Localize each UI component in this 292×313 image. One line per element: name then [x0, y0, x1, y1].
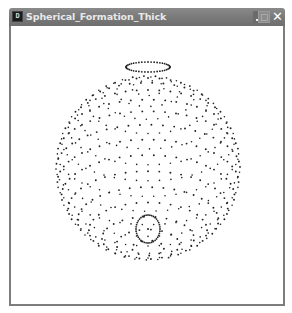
sphere-dot — [199, 203, 201, 205]
sphere-dot — [132, 76, 134, 78]
sphere-dot — [228, 154, 230, 156]
sphere-dot — [115, 112, 117, 114]
sphere-dot — [133, 244, 135, 246]
sphere-dot — [81, 210, 83, 212]
sphere-dot — [75, 111, 77, 113]
sphere-dot — [87, 232, 89, 234]
sphere-dot — [160, 252, 162, 254]
sphere-dot — [147, 133, 149, 135]
sphere-dot — [99, 195, 101, 197]
sphere-dot — [180, 242, 182, 244]
render-canvas-area[interactable] — [9, 26, 285, 306]
sphere-dot — [137, 252, 139, 254]
sphere-dot — [68, 132, 70, 134]
sphere-dot — [181, 232, 183, 234]
sphere-dot — [114, 92, 116, 94]
sphere-dot — [190, 176, 192, 178]
sphere-dot — [159, 70, 161, 72]
sphere-dot — [133, 84, 135, 86]
sphere-dot — [136, 171, 138, 173]
sphere-dot — [105, 210, 107, 212]
sphere-dot — [190, 158, 192, 160]
sphere-dot — [138, 71, 140, 73]
title-bar[interactable]: D Spherical_Formation_Thick ✕ — [9, 8, 285, 26]
sphere-dot — [95, 236, 97, 238]
sphere-dot — [191, 230, 193, 232]
sphere-dot — [67, 210, 69, 212]
sphere-dot — [227, 202, 229, 204]
sphere-dot — [140, 186, 142, 188]
sphere-dot — [191, 245, 193, 247]
sphere-dot — [138, 93, 140, 95]
sphere-dot — [231, 204, 233, 206]
sphere-dot — [150, 106, 152, 108]
sphere-dot — [152, 80, 154, 82]
sphere-dot — [138, 229, 140, 231]
sphere-dot — [238, 161, 240, 163]
sphere-dot — [167, 209, 169, 211]
sphere-dot — [142, 241, 144, 243]
sphere-dot — [213, 210, 215, 212]
sphere-dot — [139, 238, 141, 240]
sphere-dot — [149, 242, 151, 244]
sphere-dot — [207, 202, 209, 204]
sphere-dot — [65, 147, 67, 149]
sphere-dot — [234, 182, 236, 184]
sphere-dot — [217, 223, 219, 225]
sphere-dot — [105, 125, 107, 127]
sphere-dot — [136, 164, 138, 166]
sphere-dot — [156, 238, 158, 240]
sphere-dot — [130, 111, 132, 113]
sphere-dot — [238, 153, 240, 155]
sphere-dot — [88, 105, 90, 107]
sphere-dot — [132, 249, 134, 251]
sphere-dot — [207, 183, 209, 185]
sphere-dot — [64, 183, 66, 185]
sphere-dot — [63, 137, 65, 139]
sphere-dot — [177, 254, 179, 256]
sphere-dot — [142, 224, 144, 226]
sphere-dot — [125, 91, 127, 93]
sphere-dot — [61, 144, 63, 146]
sphere-dot — [159, 202, 161, 204]
sphere-dot — [202, 219, 204, 221]
maximize-button[interactable] — [258, 11, 270, 23]
sphere-dot — [173, 84, 175, 86]
sphere-dot — [89, 148, 91, 150]
sphere-dot — [166, 218, 168, 220]
sphere-dot — [67, 208, 69, 210]
sphere-dot — [78, 213, 80, 215]
sphere-dot — [113, 83, 115, 85]
sphere-dot — [180, 206, 182, 208]
app-icon[interactable]: D — [12, 11, 23, 22]
sphere-dot — [186, 114, 188, 116]
sphere-dot — [220, 117, 222, 119]
sphere-dot — [164, 99, 166, 101]
sphere-dot — [85, 168, 87, 170]
sphere-dot — [160, 148, 162, 150]
sphere-dot — [231, 165, 233, 167]
sphere-dot — [162, 62, 164, 64]
sphere-dot — [89, 224, 91, 226]
sphere-dot — [61, 199, 63, 201]
sphere-dot — [129, 187, 131, 189]
sphere-dot — [169, 91, 171, 93]
close-button[interactable]: ✕ — [271, 11, 284, 23]
sphere-dot — [89, 165, 91, 167]
sphere-dot — [153, 154, 155, 156]
sphere-dot — [68, 174, 70, 176]
sphere-dot — [89, 100, 91, 102]
sphere-dot — [233, 199, 235, 201]
sphere-dot — [71, 159, 73, 161]
sphere-dot — [150, 124, 152, 126]
sphere-dot — [113, 223, 115, 225]
sphere-dot — [124, 179, 126, 181]
sphere-dot — [158, 235, 160, 237]
sphere-dot — [168, 116, 170, 118]
sphere-dot — [80, 187, 82, 189]
sphere-dot — [94, 171, 96, 173]
sphere-dot — [63, 149, 65, 151]
sphere-dot — [212, 129, 214, 131]
sphere-dot — [55, 168, 57, 170]
sphere-dot — [63, 184, 65, 186]
